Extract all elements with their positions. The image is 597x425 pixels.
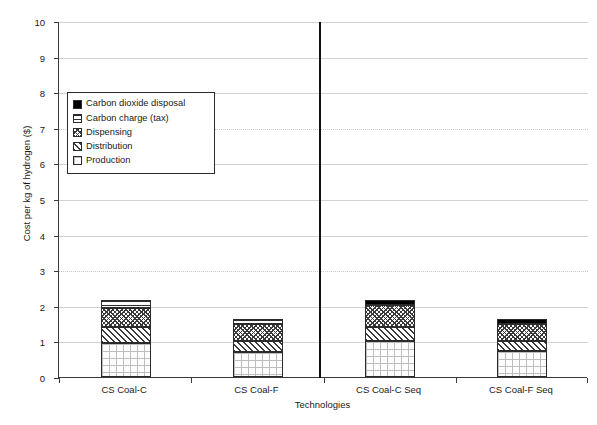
x-tick-mark bbox=[191, 378, 192, 383]
y-tick-mark bbox=[54, 93, 59, 94]
y-tick-mark bbox=[54, 271, 59, 272]
y-tick-mark bbox=[54, 58, 59, 59]
y-tick-mark bbox=[54, 200, 59, 201]
y-tick-label: 1 bbox=[40, 337, 45, 348]
gridline-9 bbox=[59, 58, 588, 59]
y-tick-label: 3 bbox=[40, 266, 45, 277]
y-tick-label: 5 bbox=[40, 195, 45, 206]
bar-segment-production bbox=[497, 351, 547, 377]
y-tick-label: 2 bbox=[40, 301, 45, 312]
x-tick-mark bbox=[456, 378, 457, 383]
y-tick-mark bbox=[54, 342, 59, 343]
plot-area bbox=[58, 22, 587, 378]
legend-swatch-cross-hatch-icon bbox=[73, 128, 82, 137]
x-tick-mark bbox=[587, 378, 588, 383]
x-axis-title: Technologies bbox=[58, 399, 587, 410]
legend-label: Production bbox=[86, 156, 130, 165]
gridline-5 bbox=[59, 200, 588, 201]
stacked-bar-chart: Cost per kg of hydrogen ($) 10 9 8 7 6 5… bbox=[0, 0, 597, 425]
legend-item-co2-disposal: Carbon dioxide disposal bbox=[73, 97, 209, 111]
bar-segment-distribution bbox=[497, 341, 547, 351]
y-tick-mark bbox=[54, 129, 59, 130]
y-tick-mark bbox=[54, 164, 59, 165]
bar-segment-dispensing bbox=[497, 324, 547, 340]
bar-segment-co2-disposal bbox=[497, 319, 547, 324]
legend-item-production: Production bbox=[73, 154, 209, 168]
bar-segment-carbon-charge bbox=[233, 319, 283, 324]
bar-cs-coal-c-seq bbox=[365, 300, 415, 377]
bar-segment-distribution bbox=[365, 327, 415, 341]
x-tick-mark bbox=[59, 378, 60, 383]
bar-segment-production bbox=[365, 341, 415, 377]
bar-cs-coal-c bbox=[101, 300, 151, 377]
bar-segment-distribution bbox=[101, 327, 151, 343]
legend-label: Carbon dioxide disposal bbox=[86, 99, 185, 108]
y-tick-label: 9 bbox=[40, 52, 45, 63]
bar-cs-coal-f-seq bbox=[497, 319, 547, 377]
bar-cs-coal-f bbox=[233, 319, 283, 377]
x-tick-label-cs-coal-c: CS Coal-C bbox=[101, 384, 146, 395]
legend-swatch-diagonal-hatch-icon bbox=[73, 142, 82, 151]
bar-segment-production bbox=[233, 352, 283, 377]
y-tick-label: 7 bbox=[40, 123, 45, 134]
bar-segment-dispensing bbox=[365, 305, 415, 327]
y-axis-tick-labels: 10 9 8 7 6 5 4 3 2 1 0 bbox=[0, 0, 58, 425]
x-tick-label-cs-coal-f-seq: CS Coal-F Seq bbox=[489, 384, 553, 395]
bar-segment-production bbox=[101, 343, 151, 377]
bar-segment-dispensing bbox=[233, 324, 283, 340]
legend-label: Distribution bbox=[86, 142, 133, 151]
legend-swatch-solid-black-icon bbox=[73, 100, 82, 109]
gridline-4 bbox=[59, 236, 588, 237]
y-tick-mark bbox=[54, 307, 59, 308]
legend-swatch-horizontal-lines-icon bbox=[73, 114, 82, 123]
legend-item-carbon-charge: Carbon charge (tax) bbox=[73, 111, 209, 125]
y-tick-mark bbox=[54, 236, 59, 237]
x-tick-label-cs-coal-c-seq: CS Coal-C Seq bbox=[356, 384, 421, 395]
legend-item-distribution: Distribution bbox=[73, 140, 209, 154]
bar-segment-dispensing bbox=[101, 308, 151, 328]
y-tick-label: 0 bbox=[40, 373, 45, 384]
legend: Carbon dioxide disposal Carbon charge (t… bbox=[67, 92, 215, 174]
legend-label: Carbon charge (tax) bbox=[86, 114, 169, 123]
legend-item-dispensing: Dispensing bbox=[73, 125, 209, 139]
vertical-divider bbox=[319, 22, 321, 378]
bar-segment-co2-disposal bbox=[365, 300, 415, 305]
bar-segment-carbon-charge bbox=[101, 300, 151, 308]
y-tick-label: 10 bbox=[34, 17, 45, 28]
x-axis-tick-labels: CS Coal-C CS Coal-F CS Coal-C Seq CS Coa… bbox=[58, 384, 587, 400]
x-tick-mark bbox=[324, 378, 325, 383]
gridline-10 bbox=[59, 22, 588, 23]
y-tick-label: 8 bbox=[40, 88, 45, 99]
bar-segment-distribution bbox=[233, 341, 283, 352]
y-tick-mark bbox=[54, 22, 59, 23]
y-tick-label: 6 bbox=[40, 159, 45, 170]
x-tick-label-cs-coal-f: CS Coal-F bbox=[234, 384, 278, 395]
gridline-3 bbox=[59, 271, 588, 272]
y-tick-label: 4 bbox=[40, 230, 45, 241]
legend-swatch-fine-grid-icon bbox=[73, 156, 82, 165]
legend-label: Dispensing bbox=[86, 128, 132, 137]
